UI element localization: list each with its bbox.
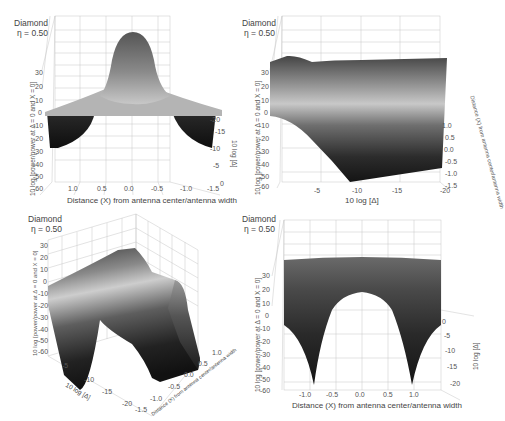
surface-plot-b (242, 0, 484, 210)
x-axis-label: Distance (X) from antenna center/antenna… (292, 401, 462, 410)
chart-panel-a: Diamond η = 0.50 10 log [power/power at … (0, 0, 242, 210)
chart-panel-d: Diamond η = 0.50 10 log [power/power at … (242, 210, 484, 420)
chart-panel-b: Diamond η = 0.50 10 log [power/power at … (242, 0, 484, 210)
x-axis-label: Distance (X) from antenna center/antenna… (67, 196, 237, 205)
surface-b (270, 56, 447, 182)
y-axis-label: 10 log [Δ] (472, 343, 479, 370)
surface-plot-d (242, 210, 484, 421)
y-axis-label: 10 log [Δ] (231, 140, 238, 167)
panel-title: Diamond η = 0.50 (242, 18, 276, 38)
null-lobe-left (47, 112, 95, 148)
panel-title: Diamond η = 0.50 (28, 214, 62, 234)
central-peak (100, 32, 170, 104)
panel-title: Diamond η = 0.50 (242, 214, 276, 234)
panel-title: Diamond η = 0.50 (14, 18, 48, 38)
surface-d (284, 257, 441, 385)
chart-panel-c: Diamond η = 0.50 10 log [power/power at … (0, 210, 242, 420)
x-axis-label: 10 log [Δ] (345, 196, 379, 205)
z-axis-label: 10 log [power/power at Δ = 0 and X = 0] (254, 278, 261, 392)
